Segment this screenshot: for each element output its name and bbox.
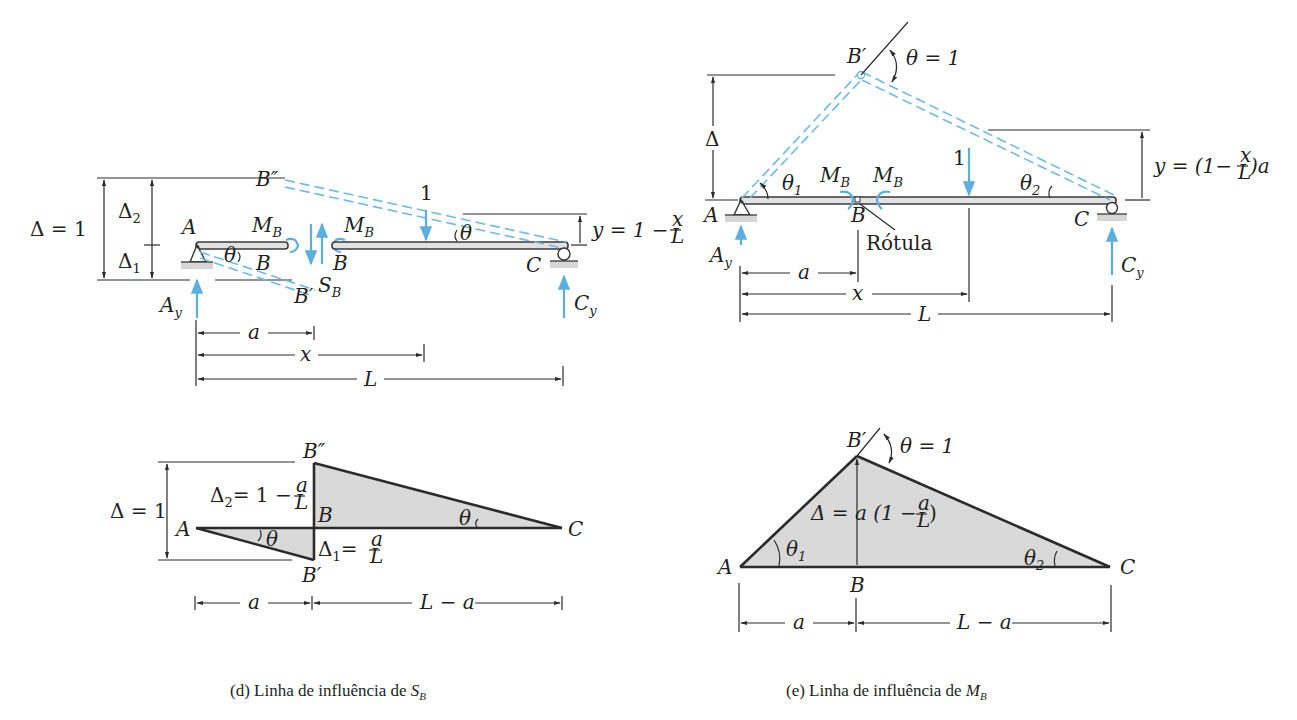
beam-abc xyxy=(740,197,1116,204)
figure-d-influence-line: Δ = 1 Δ2= 1 − a L Δ1= a L A B B″ B′ C θ … xyxy=(110,439,583,614)
theta-right-label: θ xyxy=(460,221,472,245)
moment-right-label: MB xyxy=(872,163,903,190)
dim-a-label: a xyxy=(793,610,805,634)
ground-a xyxy=(725,215,757,222)
delta2-frac-den: L xyxy=(294,490,308,514)
figure-e-beam-diagram: Δ A B′ θ = 1 θ1 MB MB B Rótula 1 θ2 xyxy=(702,22,1270,326)
y-expression-label: y = 1 − xyxy=(591,218,669,242)
dim-a-label: a xyxy=(248,320,260,344)
dim-x-label: x xyxy=(852,281,863,305)
dim-L-label: L xyxy=(917,302,931,326)
point-b-prime-label: B′ xyxy=(846,428,867,452)
point-c-label: C xyxy=(568,517,583,541)
delta-total-label: Δ = 1 xyxy=(30,217,87,241)
delta-label: Δ xyxy=(705,127,719,151)
reaction-c-label: Cy xyxy=(1121,253,1144,280)
roller-support-c xyxy=(558,248,570,260)
point-b-prime-label: B′ xyxy=(301,563,322,587)
delta-close: ) xyxy=(929,501,937,525)
point-b-label: B xyxy=(849,573,865,597)
point-b-double-prime-label: B″ xyxy=(302,439,326,463)
y-expression-right: )a xyxy=(1249,154,1270,178)
caption-d: (d) Linha de influência de SB xyxy=(230,681,426,702)
unit-load-label: 1 xyxy=(953,146,966,170)
y-expression-left: y = (1− xyxy=(1153,154,1232,178)
reaction-a-label: Ay xyxy=(158,293,182,320)
point-a-label: A xyxy=(174,517,190,541)
theta-unit-label: θ = 1 xyxy=(900,434,954,458)
delta2-label: Δ2 xyxy=(118,199,141,226)
point-a-label: A xyxy=(180,215,196,239)
moment-right-label: MB xyxy=(343,213,374,240)
dim-a-label: a xyxy=(798,260,810,284)
tangent-line xyxy=(861,22,908,75)
delta-total-label: Δ = 1 xyxy=(110,499,167,523)
dim-l-minus-a-label: L − a xyxy=(419,590,475,614)
theta2-label: θ2 xyxy=(1020,171,1040,198)
ground-a xyxy=(181,262,213,269)
moment-left-label: MB xyxy=(251,213,282,240)
point-b-right-label: B xyxy=(332,251,348,275)
caption-e: (e) Linha de influência de MB xyxy=(786,681,987,702)
unit-load-label: 1 xyxy=(420,181,433,205)
roller-support-c xyxy=(1107,203,1118,214)
moment-left-label: MB xyxy=(819,163,850,190)
dim-l-minus-a-label: L − a xyxy=(956,610,1012,634)
theta-right-label: θ xyxy=(459,506,471,530)
point-b-left-label: B xyxy=(255,251,271,275)
point-b-double-prime-label: B″ xyxy=(255,167,279,191)
delta-expression-label: Δ = a (1 − xyxy=(810,501,917,525)
beam-segment-bc xyxy=(332,242,568,249)
figure-d-beam-diagram: Δ = 1 Δ2 Δ1 A θ B B′ MB SB MB B xyxy=(30,167,684,391)
diagram-canvas: Δ = 1 Δ2 Δ1 A θ B B′ MB SB MB B xyxy=(0,0,1297,720)
y-frac-den: L xyxy=(670,224,684,248)
ground-c xyxy=(550,261,578,268)
delta1-label: Δ1 xyxy=(118,249,141,276)
point-b-prime-label: B′ xyxy=(846,44,867,68)
theta1-label: θ1 xyxy=(782,171,802,198)
dim-L-label: L xyxy=(363,367,377,391)
reaction-a-label: Ay xyxy=(708,243,732,270)
theta-unit-label: θ = 1 xyxy=(906,46,960,70)
point-c-label: C xyxy=(1120,555,1135,579)
point-b-label: B xyxy=(317,503,333,527)
dim-x-label: x xyxy=(300,342,311,366)
figure-e-influence-line: B′ θ = 1 Δ = a (1 − a L ) θ1 θ2 A B C a … xyxy=(716,428,1135,634)
point-a-label: A xyxy=(702,203,718,227)
beam-segment-ab xyxy=(196,242,288,249)
delta2-label: Δ2= 1 − xyxy=(210,483,292,510)
delta1-label: Δ1= xyxy=(318,537,358,564)
hinge-label: Rótula xyxy=(866,231,932,255)
ground-c xyxy=(1097,214,1127,221)
theta-left-label: θ xyxy=(266,527,278,551)
point-c-label: C xyxy=(526,253,541,277)
dim-a-label: a xyxy=(248,590,260,614)
point-c-label: C xyxy=(1074,207,1089,231)
theta-left-label: θ xyxy=(224,243,236,267)
reaction-c-label: Cy xyxy=(574,291,597,318)
shear-label: SB xyxy=(318,273,341,300)
hinge-b xyxy=(855,197,860,202)
delta1-frac-den: L xyxy=(369,544,383,568)
point-b-prime-label: B′ xyxy=(293,284,314,308)
point-a-label: A xyxy=(716,555,732,579)
